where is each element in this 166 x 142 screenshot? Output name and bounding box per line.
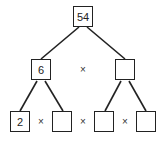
leaf-3-blank[interactable]: [94, 111, 114, 132]
node-left: 6: [31, 59, 51, 80]
multiply-sign: ×: [120, 116, 130, 127]
root-node: 54: [73, 6, 93, 27]
multiply-sign: ×: [78, 64, 88, 75]
multiply-sign: ×: [36, 116, 46, 127]
multiply-sign: ×: [78, 116, 88, 127]
node-right-blank[interactable]: [115, 59, 135, 80]
leaf-1: 2: [10, 111, 30, 132]
leaf-2-blank[interactable]: [52, 111, 72, 132]
leaf-4-blank[interactable]: [136, 111, 156, 132]
